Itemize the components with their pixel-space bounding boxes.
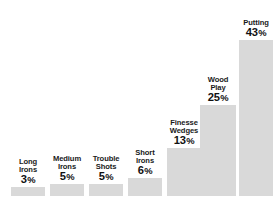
- plot-area: Long Irons 3% Medium Irons 5% Trouble Sh…: [0, 0, 277, 206]
- bar-rect: [50, 184, 84, 196]
- value-label: 13%: [174, 135, 195, 147]
- percent-symbol: %: [27, 174, 35, 185]
- bar-group-wood-play: Wood Play 25%: [200, 76, 236, 196]
- bar-chart: Long Irons 3% Medium Irons 5% Trouble Sh…: [0, 0, 277, 206]
- bar-label-block: Short Irons 6%: [135, 149, 154, 178]
- value-label: 25%: [208, 92, 229, 104]
- value-number: 6: [138, 164, 144, 176]
- value-number: 13: [174, 134, 186, 146]
- value-number: 43: [246, 26, 258, 38]
- value-label: 43%: [246, 27, 267, 39]
- value-label: 6%: [138, 165, 153, 177]
- bar-label-block: Putting 43%: [243, 19, 268, 40]
- value-number: 5: [60, 170, 66, 182]
- bar-label-block: Medium Irons 5%: [53, 155, 81, 184]
- bar-label-block: Long Irons 3%: [19, 158, 37, 187]
- bar-group-long-irons: Long Irons 3%: [11, 158, 45, 196]
- bar-rect: [200, 105, 236, 196]
- percent-symbol: %: [144, 165, 152, 176]
- bar-label-block: Wood Play 25%: [208, 76, 229, 105]
- bar-rect: [11, 187, 45, 196]
- value-number: 5: [99, 170, 105, 182]
- percent-symbol: %: [105, 171, 113, 182]
- bar-group-putting: Putting 43%: [239, 19, 273, 196]
- percent-symbol: %: [258, 27, 266, 38]
- bar-rect: [89, 184, 123, 196]
- bar-rect: [128, 178, 162, 196]
- bar-label-block: Trouble Shots 5%: [93, 155, 120, 184]
- value-number: 3: [21, 173, 27, 185]
- bar-rect: [167, 148, 201, 196]
- bar-group-short-irons: Short Irons 6%: [128, 149, 162, 196]
- bar-rect: [239, 40, 273, 196]
- bar-group-finesse-wedges: Finesse Wedges 13%: [167, 119, 201, 196]
- bar-group-medium-irons: Medium Irons 5%: [50, 155, 84, 196]
- value-label: 5%: [60, 171, 75, 183]
- bar-group-trouble-shots: Trouble Shots 5%: [89, 155, 123, 196]
- percent-symbol: %: [220, 92, 228, 103]
- value-number: 25: [208, 91, 220, 103]
- percent-symbol: %: [186, 135, 194, 146]
- value-label: 5%: [99, 171, 114, 183]
- percent-symbol: %: [66, 171, 74, 182]
- bar-label-block: Finesse Wedges 13%: [170, 119, 198, 148]
- value-label: 3%: [21, 174, 36, 186]
